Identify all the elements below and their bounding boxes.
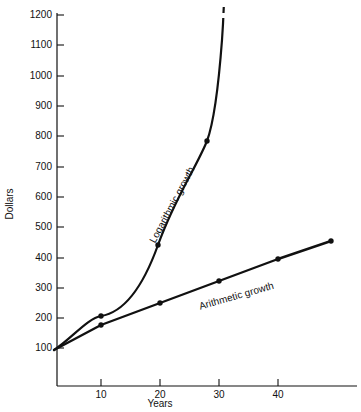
data-point-marker [98, 313, 103, 318]
y-tick-label: 1200 [13, 10, 52, 20]
data-point-marker [328, 238, 333, 243]
axes-group [57, 13, 357, 386]
x-tick-label: 10 [86, 390, 116, 400]
series-logarithmic-growth-dashed-extension [223, 2, 224, 24]
y-tick-marks [57, 15, 64, 348]
y-tick-label: 900 [13, 101, 52, 111]
y-tick-label: 600 [13, 192, 52, 202]
data-point-marker [216, 278, 221, 283]
y-tick-label: 1100 [13, 40, 52, 50]
data-point-marker [204, 138, 209, 143]
y-axis-title: Dollars [5, 181, 15, 227]
y-tick-label: 500 [13, 222, 52, 232]
x-tick-label: 40 [263, 390, 293, 400]
x-tick-label: 30 [204, 390, 234, 400]
y-tick-label: 400 [13, 253, 52, 263]
data-point-marker [157, 300, 162, 305]
series-arithmetic-growth-line [54, 241, 331, 350]
chart-canvas [0, 0, 361, 412]
x-tick-marks [101, 379, 278, 386]
data-point-marker [275, 256, 280, 261]
data-point-marker [98, 322, 103, 327]
y-tick-label: 800 [13, 131, 52, 141]
x-axis-title: Years [137, 399, 183, 409]
y-tick-label: 1000 [13, 71, 52, 81]
y-tick-label: 300 [13, 283, 52, 293]
y-tick-label: 200 [13, 313, 52, 323]
y-tick-label: 700 [13, 162, 52, 172]
y-tick-label: 100 [13, 343, 52, 353]
